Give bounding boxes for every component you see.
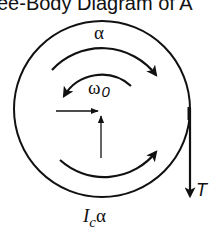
moment-arc-arrow bbox=[60, 152, 156, 177]
omega-label: ω0 bbox=[88, 77, 111, 100]
alpha-arc-arrow bbox=[52, 48, 156, 75]
free-body-diagram: α ω0 T Icα bbox=[0, 0, 219, 232]
alpha-label: α bbox=[94, 22, 104, 43]
tension-label: T bbox=[196, 180, 209, 200]
inertia-moment-label: Icα bbox=[82, 205, 106, 230]
